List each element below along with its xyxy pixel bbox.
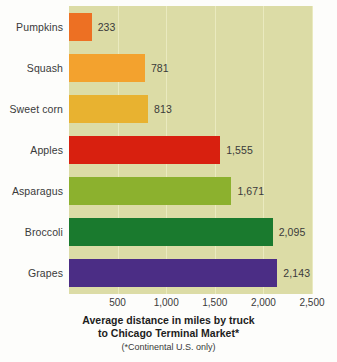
category-label: Squash (27, 62, 63, 74)
bar (69, 136, 220, 164)
bar (69, 95, 148, 123)
bar (69, 259, 277, 287)
x-axis-tick-labels: 5001,0001,5002,0002,500 (69, 297, 312, 311)
x-tick-label: 2,500 (299, 297, 324, 308)
x-tick-label: 1,000 (154, 297, 179, 308)
bar-value-label: 2,095 (279, 226, 306, 238)
x-tick-label: 500 (109, 297, 126, 308)
bar-value-label: 2,143 (283, 267, 310, 279)
x-axis-title: Average distance in miles by truck to Ch… (0, 314, 337, 340)
x-tick-label: 1,500 (202, 297, 227, 308)
category-label: Grapes (28, 267, 63, 279)
category-label: Asparagus (12, 185, 63, 197)
category-label: Apples (30, 144, 63, 156)
bar (69, 13, 92, 41)
bar-row: Apples1,555 (0, 129, 337, 170)
x-tick-label: 2,000 (251, 297, 276, 308)
bar-row: Broccoli2,095 (0, 211, 337, 252)
bar-row: Squash781 (0, 47, 337, 88)
chart-footnote: (*Continental U.S. only) (0, 342, 337, 352)
bar-value-label: 1,555 (226, 144, 253, 156)
bar-value-label: 813 (154, 103, 172, 115)
bar-row: Asparagus1,671 (0, 170, 337, 211)
bar (69, 177, 231, 205)
bar (69, 54, 145, 82)
axis-title-line-2: to Chicago Terminal Market* (0, 327, 337, 340)
category-label: Broccoli (25, 226, 63, 238)
axis-title-line-1: Average distance in miles by truck (0, 314, 337, 327)
bar-value-label: 233 (98, 21, 116, 33)
bar-value-label: 1,671 (237, 185, 264, 197)
bar-row: Grapes2,143 (0, 252, 337, 293)
bar-chart-figure: Pumpkins233Squash781Sweet corn813Apples1… (0, 0, 337, 362)
category-label: Pumpkins (16, 21, 63, 33)
category-label: Sweet corn (9, 103, 63, 115)
bar (69, 218, 273, 246)
bar-row: Pumpkins233 (0, 6, 337, 47)
bar-row: Sweet corn813 (0, 88, 337, 129)
bar-value-label: 781 (151, 62, 169, 74)
